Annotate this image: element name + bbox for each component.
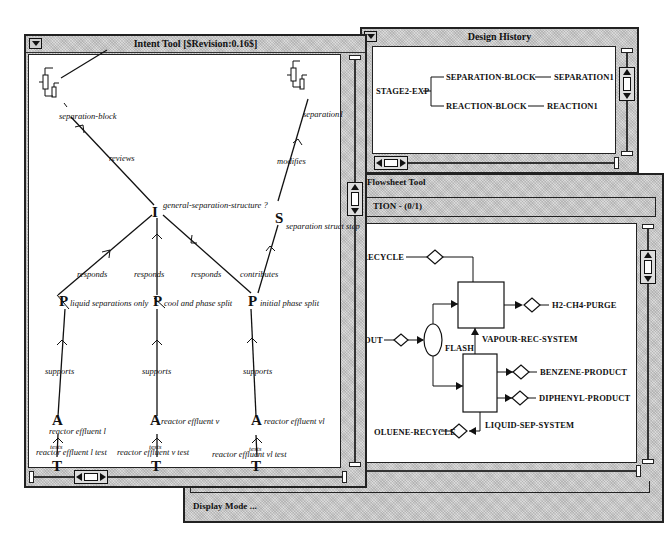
argument-node-symbol-2[interactable]: A bbox=[150, 412, 161, 429]
test-node-label-1[interactable]: reactor effluent l test bbox=[36, 447, 107, 457]
test-node-label-3[interactable]: reactor effluent vl test bbox=[212, 449, 287, 459]
history-node-reaction1[interactable]: REACTION1 bbox=[547, 101, 598, 111]
intent-graph-canvas[interactable]: separation-block separation1 reviews mod… bbox=[28, 54, 341, 468]
edge-label-supports-1: supports bbox=[45, 366, 74, 376]
intent-tool-window: Intent Tool [$Revision:0.16$] bbox=[24, 34, 367, 488]
design-history-titlebar[interactable]: Design History bbox=[362, 29, 637, 45]
position-node-symbol-1[interactable]: P bbox=[59, 293, 68, 310]
intent-horizontal-scrollbar[interactable] bbox=[28, 470, 348, 484]
edge-label-contributes: contributes bbox=[240, 269, 278, 279]
edge-label-responds-1: responds bbox=[77, 269, 107, 279]
test-node-symbol-3[interactable]: T bbox=[251, 458, 261, 475]
unit-icon-separation-block bbox=[39, 68, 59, 97]
position-node-symbol-3[interactable]: P bbox=[248, 293, 257, 310]
issue-node-label[interactable]: general-separation-structure ? bbox=[163, 200, 268, 210]
scroll-right-arrow-icon[interactable] bbox=[400, 159, 406, 167]
position-node-label-1[interactable]: liquid separations only bbox=[70, 298, 148, 308]
position-node-label-3[interactable]: initial phase split bbox=[260, 298, 319, 308]
unit-icon-separation1 bbox=[287, 61, 307, 89]
scroll-up-arrow-icon[interactable] bbox=[644, 252, 652, 258]
design-history-horizontal-scrollbar[interactable] bbox=[372, 156, 620, 170]
test-node-label-2[interactable]: reactor effluent v test bbox=[117, 447, 189, 457]
window-menu-button[interactable] bbox=[29, 38, 42, 49]
edge-label-supports-3: supports bbox=[243, 366, 272, 376]
test-node-symbol-2[interactable]: T bbox=[151, 458, 161, 475]
argument-node-symbol-3[interactable]: A bbox=[251, 412, 262, 429]
design-history-window: Design History STAGE2-EXP SEPARATION-BLO… bbox=[360, 27, 639, 174]
scroll-up-arrow-icon[interactable] bbox=[351, 184, 359, 190]
flowsheet-vertical-scrollbar[interactable] bbox=[640, 223, 656, 465]
history-node-separation-block[interactable]: SEPARATION-BLOCK bbox=[446, 72, 536, 82]
scroll-down-arrow-icon[interactable] bbox=[351, 208, 359, 214]
argument-node-label-1[interactable]: reactor effluent l bbox=[49, 426, 106, 436]
design-history-vertical-scrollbar[interactable] bbox=[620, 47, 634, 157]
step-node-symbol[interactable]: S bbox=[275, 210, 283, 227]
node-separation1[interactable]: separation1 bbox=[303, 109, 344, 119]
intent-vscroll-thumb[interactable] bbox=[347, 182, 363, 216]
flowsheet-tool-title: Flowsheet Tool bbox=[367, 177, 426, 187]
design-history-canvas[interactable]: STAGE2-EXP SEPARATION-BLOCK SEPARATION1 … bbox=[372, 46, 616, 154]
history-node-reaction-block[interactable]: REACTION-BLOCK bbox=[446, 101, 527, 111]
display-mode-status[interactable]: Display Mode ... bbox=[193, 501, 257, 511]
history-node-separation1[interactable]: SEPARATION1 bbox=[554, 72, 614, 82]
argument-node-label-2[interactable]: reactor effluent v bbox=[161, 416, 219, 426]
intent-hscroll-thumb[interactable] bbox=[74, 470, 108, 484]
edge-label-reviews: reviews bbox=[109, 153, 135, 163]
issue-node-symbol[interactable]: I bbox=[152, 204, 158, 221]
stream-toluene-recycle[interactable]: OLUENE-RECYCLE bbox=[374, 427, 456, 437]
intent-vertical-scrollbar[interactable] bbox=[348, 54, 362, 468]
edge-label-modifies: modifies bbox=[277, 156, 306, 166]
argument-node-label-3[interactable]: reactor effluent vl bbox=[264, 416, 325, 426]
scroll-left-arrow-icon[interactable] bbox=[376, 159, 382, 167]
test-node-symbol-1[interactable]: T bbox=[52, 458, 62, 475]
design-history-hscroll-thumb[interactable] bbox=[374, 156, 408, 170]
intent-tool-titlebar[interactable]: Intent Tool [$Revision:0.16$] bbox=[26, 36, 365, 53]
position-node-label-2[interactable]: cool and phase split bbox=[164, 298, 232, 308]
scroll-right-arrow-icon[interactable] bbox=[100, 473, 106, 481]
stream-diphenyl-product[interactable]: DIPHENYL-PRODUCT bbox=[539, 393, 630, 403]
scroll-left-arrow-icon[interactable] bbox=[76, 473, 82, 481]
stream-benzene-product[interactable]: BENZENE-PRODUCT bbox=[540, 367, 627, 377]
history-node-stage2-exp[interactable]: STAGE2-EXP bbox=[376, 86, 429, 96]
unit-vapour-rec-system[interactable]: VAPOUR-REC-SYSTEM bbox=[482, 334, 578, 344]
edge-label-supports-2: supports bbox=[142, 366, 171, 376]
stream-h2-ch4-purge[interactable]: H2-CH4-PURGE bbox=[552, 300, 616, 310]
unit-flash[interactable]: FLASH bbox=[445, 343, 474, 353]
scroll-down-arrow-icon[interactable] bbox=[623, 93, 631, 99]
scroll-up-arrow-icon[interactable] bbox=[623, 69, 631, 75]
unit-liquid-sep-system[interactable]: LIQUID-SEP-SYSTEM bbox=[485, 420, 574, 430]
design-history-vscroll-thumb[interactable] bbox=[619, 67, 635, 101]
edge-label-responds-2: responds bbox=[134, 269, 164, 279]
scroll-down-arrow-icon[interactable] bbox=[644, 276, 652, 282]
flowsheet-header-text: TION - (0/1) bbox=[373, 201, 422, 211]
node-separation-block[interactable]: separation-block bbox=[59, 111, 117, 121]
design-history-title: Design History bbox=[468, 31, 532, 42]
position-node-symbol-2[interactable]: P bbox=[153, 293, 162, 310]
flowsheet-vscroll-thumb[interactable] bbox=[640, 250, 656, 284]
intent-tool-title: Intent Tool [$Revision:0.16$] bbox=[134, 38, 258, 49]
edge-label-responds-3: responds bbox=[191, 269, 221, 279]
